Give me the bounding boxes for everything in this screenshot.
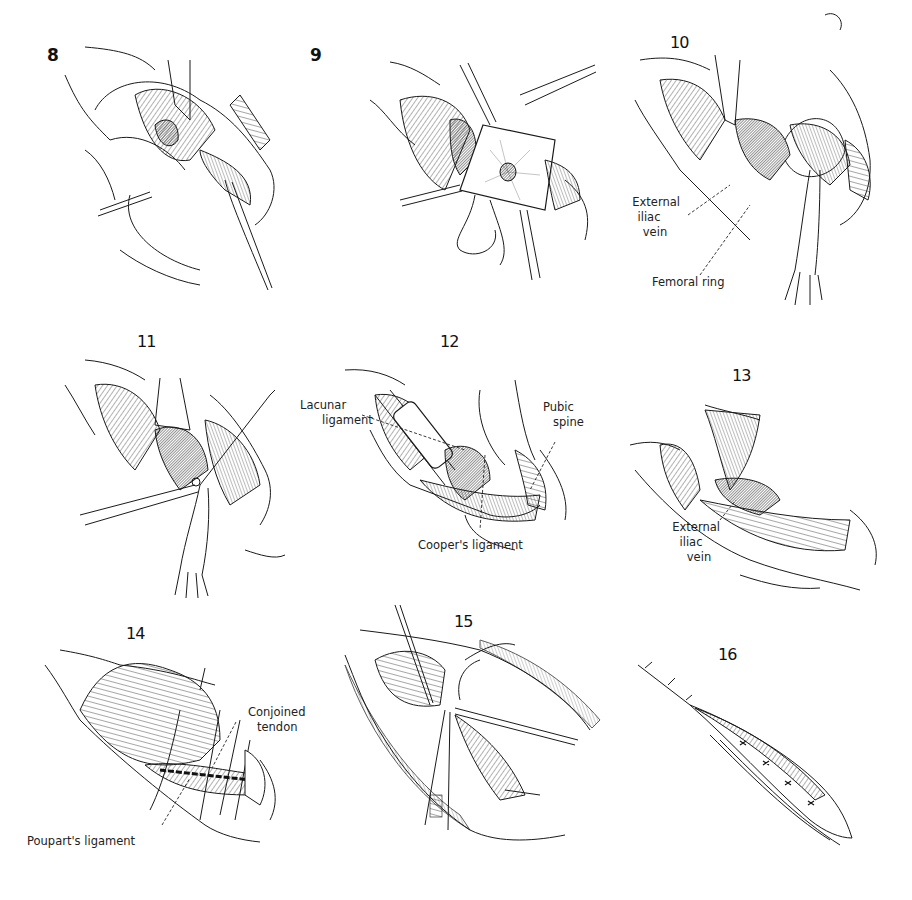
figure-panel-14: 14 Conjoined tendon Poupart's ligament (20, 610, 330, 870)
figure-panel-9: 9 (300, 0, 600, 300)
surgical-sketch-8 (0, 0, 300, 300)
surgical-sketch-15 (330, 600, 630, 860)
label-pubic-spine: Pubic spine (543, 400, 584, 430)
label-femoral-ring: Femoral ring (652, 275, 724, 290)
label-pouparts-ligament: Poupart's ligament (27, 834, 135, 849)
surgical-sketch-9 (300, 0, 600, 300)
label-coopers-ligament: Cooper's ligament (418, 538, 523, 553)
surgical-sketch-11 (60, 320, 320, 600)
label-external-iliac-vein-13: External iliac vein (650, 520, 720, 565)
figure-panel-10: 10 External iliac vein Femoral ring (600, 0, 912, 320)
label-lacunar-ligament: Lacunar ligament (300, 398, 373, 428)
label-conjoined-tendon: Conjoined tendon (248, 705, 305, 735)
surgical-sketch-10 (600, 0, 912, 320)
figure-panel-16: 16 (620, 600, 912, 860)
figure-panel-15: 15 (330, 600, 630, 860)
figure-panel-8: 8 (0, 0, 300, 300)
label-external-iliac-vein-10: External iliac vein (610, 195, 680, 240)
figure-panel-13: 13 External iliac vein (620, 350, 912, 600)
figure-panel-12: 12 Lacunar ligament Pubic spine Cooper's… (290, 320, 600, 580)
figure-panel-11: 11 (60, 320, 320, 600)
surgical-sketch-16 (620, 600, 912, 860)
surgical-sketch-14 (20, 610, 330, 870)
